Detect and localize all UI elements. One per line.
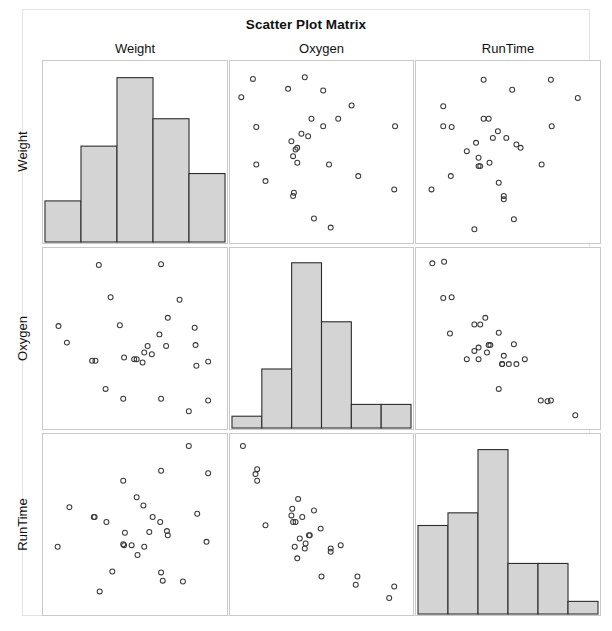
scatter-point [117,323,122,328]
scatter-point [522,357,527,362]
histogram-bar [418,525,448,614]
histogram-bar [262,369,292,428]
scatter-point [485,350,490,355]
scatter-point [253,472,258,477]
scatter-point [511,217,516,222]
scatter-point [538,398,543,403]
scatter-point [472,348,477,353]
histogram-bar [189,174,225,242]
panel-runtime-runtime-histogram[interactable] [415,433,601,616]
panel-oxygen-weight-scatter[interactable] [42,247,228,430]
scatter-point [328,225,333,230]
scatter-point [518,145,523,150]
scatter-point [206,398,211,403]
panel-oxygen-oxygen-histogram[interactable] [229,247,414,430]
scatter-point [319,574,324,579]
scatter-point [336,116,341,121]
scatter-point [338,543,343,548]
scatter-point [327,162,332,167]
scatter-point [429,187,434,192]
scatter-point [140,360,145,365]
scatter-point [321,88,326,93]
scatter-point [67,505,72,510]
scatter-point [64,340,69,345]
panel-oxygen-runtime-scatter[interactable] [415,247,601,430]
scatter-point [500,362,505,367]
histogram-bar [292,263,322,428]
scatter-point [311,508,316,513]
scatter-point [159,468,164,473]
histogram-bar [448,513,478,614]
scatter-point [449,295,454,300]
scatter-point [311,216,316,221]
scatter-point [549,124,554,129]
scatter-point [165,315,170,320]
scatter-point [476,155,481,160]
scatter-point [206,359,211,364]
scatter-point [193,343,198,348]
scatter-point [353,582,358,587]
scatter-point [501,353,506,358]
scatter-point [573,413,578,418]
scatter-point [328,549,333,554]
scatter-point [300,515,305,520]
scatter-point [302,546,307,551]
scatter-point [442,259,447,264]
scatter-point [291,190,296,195]
scatter-point [145,343,150,348]
histogram-bar [232,416,262,428]
scatter-point [474,140,479,145]
scatter-point [121,396,126,401]
scatter-point [122,530,127,535]
scatter-point [255,467,260,472]
scatter-point [55,544,60,549]
scatter-point [286,86,291,91]
scatter-point [110,569,115,574]
scatter-point [387,596,392,601]
scatter-point [441,124,446,129]
scatter-point [108,295,113,300]
scatter-point [303,541,308,546]
histogram-bar [478,450,508,614]
scatter-point [295,160,300,165]
histogram-bar [351,404,381,428]
scatter-point [430,261,435,266]
histogram-bar [381,404,411,428]
scatter-point [302,75,307,80]
scatter-point [121,478,126,483]
scatter-point [135,553,140,558]
scatter-point [206,471,211,476]
column-header-runtime: RunTime [415,41,601,57]
panel-weight-runtime-scatter[interactable] [415,60,601,244]
scatter-point [204,539,209,544]
scatter-point [254,125,259,130]
scatter-point [96,263,101,268]
scatter-point [186,409,191,414]
scatter-point [441,296,446,301]
scatter-point [476,357,481,362]
scatter-point [448,331,453,336]
scatter-point [292,544,297,549]
scatter-point [103,386,108,391]
scatter-point [514,362,519,367]
scatter-point [464,357,469,362]
scatter-point [449,125,454,130]
scatter-point [393,124,398,129]
scatter-point [97,589,102,594]
scatter-point [481,116,486,121]
scatter-point [481,77,486,82]
scatter-point [157,332,162,337]
scatter-point [289,139,294,144]
scatter-point [159,262,164,267]
scatter-point [291,194,296,199]
panel-runtime-oxygen-scatter[interactable] [229,433,414,616]
panel-runtime-weight-scatter[interactable] [42,433,228,616]
panel-weight-oxygen-scatter[interactable] [229,60,414,244]
panel-weight-weight-histogram[interactable] [42,60,228,244]
scatter-point [490,135,495,140]
scatter-point [464,149,469,154]
scatter-point [548,398,553,403]
scatter-point [355,574,360,579]
scatter-point [448,174,453,179]
row-header-runtime: RunTime [14,433,32,616]
